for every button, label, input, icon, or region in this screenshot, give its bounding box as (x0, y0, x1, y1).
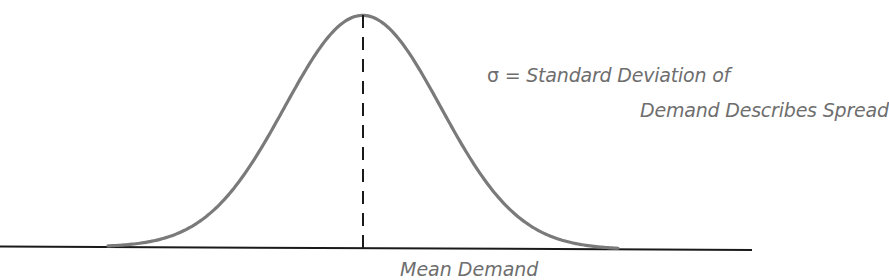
sigma-definition-line-2: Demand Describes Spread (640, 99, 889, 121)
equals-sign: = (499, 64, 526, 86)
mean-label: Mean Demand (400, 260, 538, 279)
sigma-label-line-1: σ = Standard Deviation of (487, 66, 730, 85)
sigma-label-line-2: Demand Describes Spread (640, 101, 889, 120)
sigma-symbol: σ (487, 64, 499, 86)
sigma-definition-line-1: Standard Deviation of (526, 64, 730, 86)
